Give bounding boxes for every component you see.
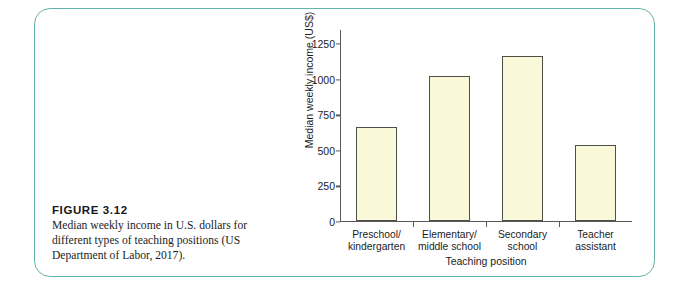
y-tick-label: 1000 [312, 74, 335, 86]
x-tick-mark [413, 222, 414, 227]
bar [429, 76, 470, 221]
figure-caption: FIGURE 3.12 Median weekly income in U.S.… [52, 204, 267, 263]
y-tick-mark [336, 150, 340, 151]
x-tick-label: Elementary/middle school [408, 229, 492, 253]
figure-caption-text: Median weekly income in U.S. dollars for… [52, 219, 267, 263]
y-axis-line [340, 30, 341, 222]
x-tick-label: Secondaryschool [481, 229, 565, 253]
y-tick-mark [336, 221, 340, 222]
bar [356, 127, 397, 221]
y-tick-mark [336, 186, 340, 187]
y-tick-mark [336, 44, 340, 45]
figure-root: FIGURE 3.12 Median weekly income in U.S.… [0, 0, 688, 290]
x-tick-mark [486, 222, 487, 227]
x-axis-title: Teaching position [340, 255, 632, 267]
y-tick-label: 0 [329, 216, 335, 228]
x-tick-label: Preschool/kindergarten [335, 229, 419, 253]
x-tick-label: Teacherassistant [554, 229, 638, 253]
bar-chart: Median weekly income (US$) 0250500750100… [282, 22, 647, 272]
x-tick-mark [559, 222, 560, 227]
bar [502, 56, 543, 220]
y-tick-mark [336, 115, 340, 116]
y-tick-label: 750 [317, 109, 335, 121]
bar [575, 145, 616, 221]
y-tick-label: 250 [317, 180, 335, 192]
figure-number-label: FIGURE 3.12 [52, 204, 267, 216]
y-tick-label: 1250 [312, 38, 335, 50]
y-tick-label: 500 [317, 145, 335, 157]
y-tick-mark [336, 79, 340, 80]
plot-area: 025050075010001250 Preschool/kindergarte… [340, 30, 632, 222]
